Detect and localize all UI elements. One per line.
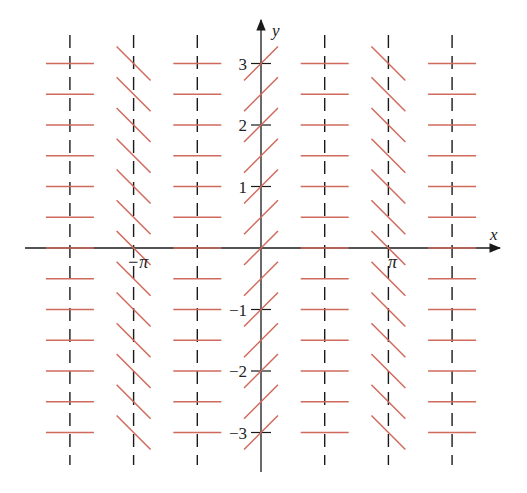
y-tick-label: −3 (229, 424, 247, 443)
y-tick-label: 3 (239, 55, 248, 74)
x-tick-label: −π (127, 252, 149, 272)
axis-labels: x y (270, 21, 498, 244)
slope-segment (371, 47, 405, 81)
y-tick-label: −1 (229, 301, 247, 320)
slope-segment (371, 108, 405, 142)
slope-segment (117, 108, 151, 142)
slope-field-diagram: x y 321−1−2−3−ππ (0, 0, 527, 493)
y-tick-label: 2 (239, 116, 248, 135)
slope-segment (117, 170, 151, 204)
y-tick-label: −2 (229, 362, 247, 381)
x-axis-label: x (489, 225, 498, 244)
y-tick-label: 1 (239, 178, 248, 197)
y-axis-label: y (270, 21, 280, 40)
slope-segment (117, 47, 151, 81)
slope-segment (371, 170, 405, 204)
x-tick-label: π (388, 252, 398, 272)
